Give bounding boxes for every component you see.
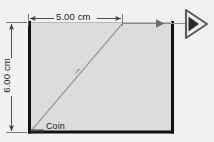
ray-diagram-svg bbox=[0, 0, 214, 142]
eye-icon bbox=[186, 10, 207, 38]
height-dimension-label: 6.00 cm bbox=[1, 58, 12, 93]
coin-label: Coin bbox=[46, 121, 65, 131]
liquid-fill bbox=[28, 22, 174, 133]
figure-canvas: 5.00 cm 6.00 cm Coin bbox=[0, 0, 214, 142]
width-dimension-label: 5.00 cm bbox=[56, 11, 91, 22]
